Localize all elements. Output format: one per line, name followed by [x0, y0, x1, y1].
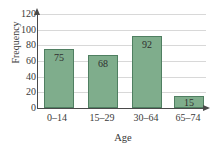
- y-tick-label-20: 20: [2, 87, 36, 97]
- x-tick-label-30-64: 30–64: [126, 112, 166, 123]
- bar-value-15-29: 68: [89, 58, 117, 69]
- gridline-120: [38, 14, 206, 15]
- x-tick-label-65-74: 65–74: [168, 112, 208, 123]
- y-tick-label-60: 60: [2, 56, 36, 66]
- x-tick-label-15-29: 15–29: [82, 112, 122, 123]
- y-axis-line: [37, 14, 38, 109]
- x-tick-label-0-14: 0–14: [39, 112, 75, 123]
- bar-15-29[interactable]: 68: [88, 55, 118, 108]
- y-tick-label-40: 40: [2, 72, 36, 82]
- plot-area: 75 68 92 15: [38, 14, 206, 108]
- gridline-80: [38, 45, 206, 46]
- x-axis-line: [38, 108, 204, 109]
- y-tick-label-100: 100: [2, 25, 36, 35]
- y-tick-label-0: 0: [2, 103, 36, 113]
- bar-65-74[interactable]: 15: [174, 96, 204, 108]
- y-tick-label-80: 80: [2, 40, 36, 50]
- y-axis-tick-labels: 120 100 80 60 40 20 0: [0, 0, 36, 150]
- bar-value-30-64: 92: [133, 39, 161, 50]
- x-axis-title: Age: [38, 132, 208, 143]
- bar-value-0-14: 75: [45, 52, 73, 63]
- x-axis-arrow-icon: [203, 105, 210, 111]
- y-axis-arrow-icon: [34, 8, 40, 15]
- bar-value-65-74: 15: [175, 97, 203, 108]
- gridline-100: [38, 30, 206, 31]
- bar-0-14[interactable]: 75: [44, 49, 74, 108]
- bar-30-64[interactable]: 92: [132, 36, 162, 108]
- frequency-bar-chart: Frequency 120 100 80 60 40 20 0 75 68 92…: [0, 0, 216, 150]
- y-tick-label-120: 120: [2, 9, 36, 19]
